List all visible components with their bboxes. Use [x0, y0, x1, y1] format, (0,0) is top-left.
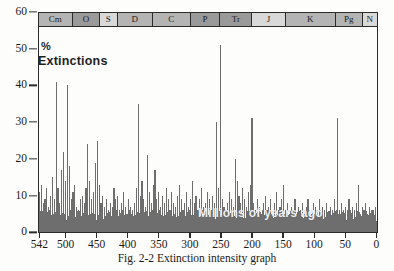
period-label: J — [267, 15, 271, 24]
period-cell-d: D — [118, 13, 154, 26]
period-cell-n: N — [363, 13, 377, 26]
figure-container: 0102030405060 CmOSDCPTrJKPgN % Extinctio… — [0, 0, 394, 271]
period-label: Tr — [232, 15, 240, 24]
y-tick-label: 40 — [16, 80, 28, 92]
y-tick-mark — [29, 48, 37, 49]
period-label: S — [106, 15, 111, 24]
period-cell-pg: Pg — [336, 13, 363, 26]
y-axis-inline-label: Extinctions — [38, 54, 108, 68]
x-axis-inline-label: Millions of years ago — [198, 206, 323, 220]
y-tick-label: 30 — [16, 116, 28, 128]
period-label: O — [83, 15, 90, 24]
period-label: K — [307, 15, 314, 24]
period-label: P — [202, 15, 207, 24]
y-tick-mark — [29, 158, 37, 159]
y-tick-mark — [29, 121, 37, 122]
y-tick-mark — [29, 11, 37, 12]
y-tick-mark — [29, 85, 37, 86]
period-cell-k: K — [286, 13, 336, 26]
x-tick-label: 300 — [181, 239, 198, 251]
period-cell-tr: Tr — [220, 13, 252, 26]
y-tick-mark — [29, 195, 37, 196]
x-tick-label: 400 — [119, 239, 136, 251]
y-tick-label: 50 — [16, 43, 28, 55]
period-label: Pg — [344, 15, 354, 24]
x-tick-label: 50 — [340, 239, 352, 251]
extinction-bar-baseline — [376, 221, 377, 233]
period-cell-j: J — [252, 13, 286, 26]
x-tick-label: 150 — [275, 239, 292, 251]
x-tick-label: 500 — [57, 239, 74, 251]
y-tick-label: 20 — [16, 153, 28, 165]
x-axis: 542500450400350300250200150100500 — [0, 233, 394, 259]
period-label: D — [132, 15, 139, 24]
extinction-bars — [39, 12, 376, 232]
x-tick-label: 0 — [374, 239, 380, 251]
period-label: C — [168, 15, 174, 24]
period-cell-cm: Cm — [39, 13, 73, 26]
x-tick-label: 450 — [88, 239, 105, 251]
x-tick-label: 100 — [306, 239, 323, 251]
period-cell-o: O — [73, 13, 100, 26]
period-label: Cm — [49, 15, 62, 24]
x-tick-label: 250 — [212, 239, 229, 251]
y-tick-label: 60 — [16, 6, 28, 18]
period-label: N — [366, 15, 373, 24]
period-cell-s: S — [100, 13, 117, 26]
x-tick-label: 542 — [31, 239, 48, 251]
period-cell-p: P — [191, 13, 221, 26]
x-tick-label: 200 — [243, 239, 260, 251]
geologic-period-band: CmOSDCPTrJKPgN — [38, 12, 378, 27]
y-tick-label: 10 — [16, 190, 28, 202]
percent-symbol-label: % — [41, 40, 51, 52]
y-axis: 0102030405060 — [0, 0, 38, 245]
x-tick-label: 350 — [150, 239, 167, 251]
period-cell-c: C — [153, 13, 190, 26]
